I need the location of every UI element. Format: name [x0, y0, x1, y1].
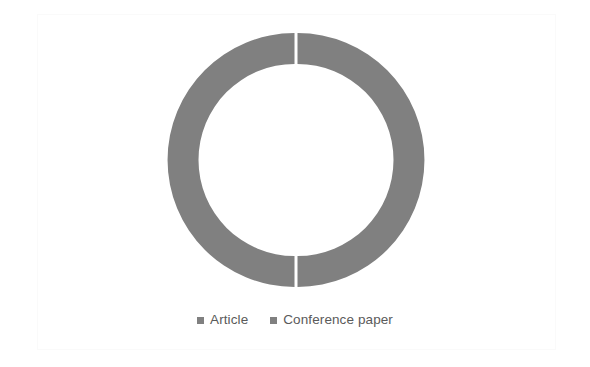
- legend-label-article: Article: [210, 312, 248, 327]
- legend-item-article[interactable]: Article: [197, 312, 248, 327]
- pie-slice-conference-paper[interactable]: [168, 33, 295, 287]
- pie-slice-article[interactable]: [298, 33, 425, 287]
- legend-swatch-article-icon: [197, 317, 204, 324]
- legend-item-conference-paper[interactable]: Conference paper: [270, 312, 393, 327]
- legend-swatch-conference-paper-icon: [270, 317, 277, 324]
- chart-legend: Article Conference paper: [0, 312, 590, 327]
- legend-label-conference-paper: Conference paper: [283, 312, 393, 327]
